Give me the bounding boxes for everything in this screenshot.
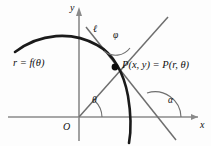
point-p-marker: [112, 64, 119, 71]
curve-equation-label: r = f(θ): [13, 58, 45, 69]
x-axis: [8, 114, 198, 120]
y-axis: [76, 7, 82, 141]
tangent-line-label: ℓ: [93, 24, 97, 34]
theta-angle-label: θ: [92, 96, 97, 106]
y-axis-label: y: [70, 3, 74, 13]
polar-tangent-diagram: y x O r = f(θ) P(x, y) = P(r, θ) ℓ φ θ α: [0, 0, 211, 146]
origin-label: O: [63, 122, 70, 132]
phi-angle-label: φ: [113, 31, 118, 41]
diagram-canvas: [0, 0, 211, 146]
alpha-angle-label: α: [168, 96, 173, 106]
alpha-arc: [147, 92, 181, 117]
y-axis-arrowhead: [76, 7, 82, 16]
point-p-label: P(x, y) = P(r, θ): [122, 60, 189, 71]
x-axis-arrowhead: [191, 114, 198, 120]
polar-curve: [15, 36, 130, 143]
x-axis-label: x: [200, 120, 204, 130]
